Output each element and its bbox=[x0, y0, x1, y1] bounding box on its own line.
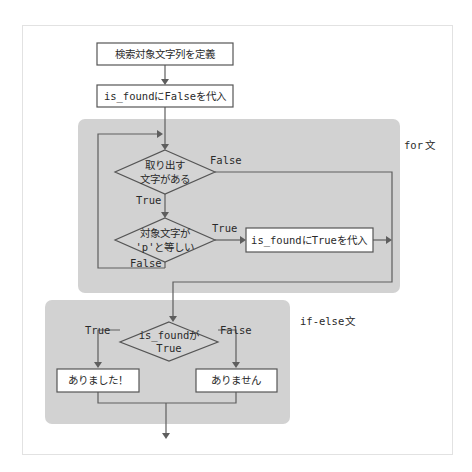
found-box: ありました！ bbox=[57, 369, 139, 392]
for-loop-region bbox=[78, 119, 400, 293]
svg-text:ありました！: ありました！ bbox=[68, 374, 128, 386]
svg-text:is_foundが: is_foundが bbox=[139, 329, 201, 342]
equals-p-false-label: False bbox=[130, 257, 162, 269]
if-true-label: True bbox=[85, 324, 110, 336]
set-true-box: is_foundにTrueを代入 bbox=[246, 228, 373, 252]
flowchart: for文 if-else文 bbox=[0, 0, 472, 472]
svg-text:取り出す: 取り出す bbox=[145, 159, 185, 171]
svg-text:対象文字が: 対象文字が bbox=[140, 227, 191, 239]
svg-text:'p'と等しい: 'p'と等しい bbox=[136, 241, 195, 253]
svg-text:文字がある: 文字がある bbox=[140, 173, 190, 185]
define-string-box: 検索対象文字列を定義 bbox=[97, 43, 233, 65]
has-char-false-label: False bbox=[210, 154, 242, 166]
svg-text:is_foundにTrueを代入: is_foundにTrueを代入 bbox=[251, 234, 368, 247]
init-false-box: is_foundにFalseを代入 bbox=[97, 85, 233, 107]
equals-p-true-label: True bbox=[212, 222, 237, 234]
if-false-label: False bbox=[220, 324, 252, 336]
not-found-box: ありません bbox=[196, 369, 277, 392]
for-region-label: for文 bbox=[404, 139, 436, 151]
if-else-region bbox=[45, 300, 290, 424]
svg-text:is_foundにFalseを代入: is_foundにFalseを代入 bbox=[104, 90, 227, 103]
has-char-true-label: True bbox=[136, 194, 161, 206]
svg-text:True: True bbox=[156, 342, 181, 354]
svg-text:検索対象文字列を定義: 検索対象文字列を定義 bbox=[115, 48, 216, 60]
if-else-region-label: if-else文 bbox=[300, 315, 356, 327]
svg-text:ありません: ありません bbox=[211, 374, 261, 386]
